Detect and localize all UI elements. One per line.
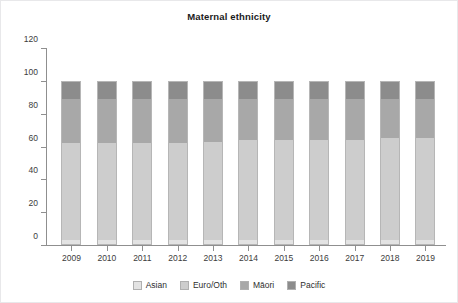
x-axis-label: 2011: [133, 253, 151, 263]
legend-label: Asian: [146, 280, 167, 290]
legend-label: Pacific: [300, 280, 325, 290]
legend-item[interactable]: Asian: [133, 280, 167, 290]
x-axis-tick: [71, 246, 72, 251]
bar-segment[interactable]: [168, 81, 188, 99]
x-axis-label: 2010: [97, 253, 116, 263]
bar-segment[interactable]: [97, 99, 117, 143]
legend-item[interactable]: Euro/Oth: [180, 280, 227, 290]
x-axis-tick: [319, 246, 320, 251]
chart-figure: Maternal ethnicity 020406080100120 20092…: [1, 1, 457, 302]
bar-segment[interactable]: [132, 99, 152, 143]
legend-label: Euro/Oth: [193, 280, 227, 290]
x-axis-tick: [355, 246, 356, 251]
stacked-bar[interactable]: [238, 81, 258, 245]
stacked-bar[interactable]: [380, 81, 400, 245]
y-axis-label: 120: [24, 34, 38, 44]
bar-segment[interactable]: [61, 99, 81, 143]
bar-segment[interactable]: [309, 99, 329, 140]
stacked-bar[interactable]: [168, 81, 188, 245]
bar-segment[interactable]: [132, 240, 152, 245]
bar-segment[interactable]: [380, 99, 400, 138]
y-axis-label: 80: [29, 100, 38, 110]
x-axis-tick: [284, 246, 285, 251]
bar-segment[interactable]: [61, 143, 81, 240]
bar-segment[interactable]: [238, 99, 258, 140]
x-axis-tick: [142, 246, 143, 251]
bar-segment[interactable]: [203, 99, 223, 142]
legend-swatch-icon: [133, 281, 142, 290]
stacked-bar[interactable]: [309, 81, 329, 245]
x-axis-label: 2017: [345, 253, 364, 263]
bar-segment[interactable]: [203, 142, 223, 241]
bar-group: [46, 48, 446, 246]
bar-segment[interactable]: [97, 143, 117, 240]
stacked-bar[interactable]: [132, 81, 152, 245]
legend-swatch-icon: [180, 281, 189, 290]
stacked-bar[interactable]: [345, 81, 365, 245]
x-axis-tick: [390, 246, 391, 251]
bar-segment[interactable]: [309, 81, 329, 99]
bar-segment[interactable]: [238, 81, 258, 99]
stacked-bar[interactable]: [415, 81, 435, 245]
bar-segment[interactable]: [168, 99, 188, 143]
bar-segment[interactable]: [274, 81, 294, 99]
bar-segment[interactable]: [415, 81, 435, 99]
bar-segment[interactable]: [309, 140, 329, 240]
bar-segment[interactable]: [274, 240, 294, 245]
bar-segment[interactable]: [345, 240, 365, 245]
stacked-bar[interactable]: [97, 81, 117, 245]
plot-area: 020406080100120 200920102011201220132014…: [46, 48, 446, 246]
x-axis-tick: [248, 246, 249, 251]
y-axis-label: 60: [29, 133, 38, 143]
y-axis-label: 40: [29, 165, 38, 175]
bar-segment[interactable]: [238, 140, 258, 240]
bar-segment[interactable]: [238, 240, 258, 245]
bar-segment[interactable]: [345, 140, 365, 240]
y-axis-label: 20: [29, 198, 38, 208]
bar-segment[interactable]: [274, 99, 294, 140]
bar-segment[interactable]: [309, 240, 329, 245]
x-axis-tick: [107, 246, 108, 251]
x-axis-label: 2019: [416, 253, 435, 263]
x-axis-label: 2015: [274, 253, 293, 263]
x-axis-label: 2009: [62, 253, 81, 263]
bar-segment[interactable]: [61, 81, 81, 99]
bar-segment[interactable]: [203, 81, 223, 99]
legend-swatch-icon: [287, 281, 296, 290]
x-axis-label: 2014: [239, 253, 258, 263]
x-axis-label: 2016: [310, 253, 329, 263]
bar-segment[interactable]: [274, 140, 294, 240]
bar-segment[interactable]: [415, 240, 435, 245]
bar-segment[interactable]: [132, 143, 152, 240]
legend-label: Māori: [253, 280, 274, 290]
bar-segment[interactable]: [380, 240, 400, 245]
bar-segment[interactable]: [203, 240, 223, 245]
legend-item[interactable]: Pacific: [287, 280, 325, 290]
chart-legend: AsianEuro/OthMāoriPacific: [1, 280, 457, 290]
x-axis-label: 2013: [204, 253, 223, 263]
bar-segment[interactable]: [97, 240, 117, 245]
bar-segment[interactable]: [345, 99, 365, 140]
stacked-bar[interactable]: [61, 81, 81, 245]
y-axis-label: 100: [24, 67, 38, 77]
bar-segment[interactable]: [415, 99, 435, 138]
bar-segment[interactable]: [168, 143, 188, 240]
x-axis-tick: [213, 246, 214, 251]
bar-segment[interactable]: [345, 81, 365, 99]
bar-segment[interactable]: [61, 240, 81, 245]
stacked-bar[interactable]: [203, 81, 223, 245]
bar-segment[interactable]: [380, 138, 400, 240]
bar-segment[interactable]: [97, 81, 117, 99]
x-axis-label: 2018: [381, 253, 400, 263]
y-axis-label: 0: [33, 231, 38, 241]
stacked-bar[interactable]: [274, 81, 294, 245]
bar-segment[interactable]: [168, 240, 188, 245]
bar-segment[interactable]: [380, 81, 400, 99]
bar-segment[interactable]: [132, 81, 152, 99]
x-axis-tick: [425, 246, 426, 251]
legend-swatch-icon: [240, 281, 249, 290]
bar-segment[interactable]: [415, 138, 435, 240]
x-axis-tick: [178, 246, 179, 251]
legend-item[interactable]: Māori: [240, 280, 274, 290]
chart-title: Maternal ethnicity: [1, 11, 457, 22]
